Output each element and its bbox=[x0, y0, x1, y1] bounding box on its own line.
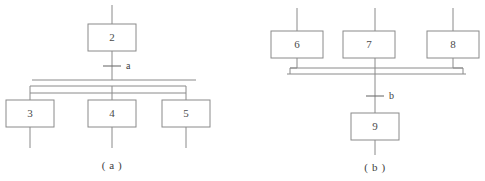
box-8[interactable]: 8 bbox=[427, 31, 479, 58]
block-diagram-figure: 2 a 3 4 bbox=[0, 0, 485, 181]
box-5-label: 5 bbox=[183, 107, 189, 119]
box-6-label: 6 bbox=[294, 38, 300, 50]
diagram-a-group: 2 a 3 4 bbox=[6, 5, 210, 172]
box-3[interactable]: 3 bbox=[6, 100, 54, 127]
box-2-label: 2 bbox=[109, 31, 115, 43]
caption-a: ( a ) bbox=[102, 159, 123, 172]
box-4-label: 4 bbox=[109, 107, 115, 119]
caption-b: ( b ) bbox=[364, 161, 385, 174]
box-5[interactable]: 5 bbox=[162, 100, 210, 127]
figure-container: 2 a 3 4 bbox=[0, 0, 485, 181]
diagram-b-group: 6 7 8 b bbox=[271, 8, 479, 174]
arc-box8-to-join bbox=[453, 58, 463, 74]
box-9[interactable]: 9 bbox=[351, 113, 399, 140]
box-3-label: 3 bbox=[27, 107, 33, 119]
transition-b-label: b bbox=[389, 90, 394, 101]
box-2[interactable]: 2 bbox=[88, 24, 136, 51]
box-9-label: 9 bbox=[372, 120, 378, 132]
box-7-label: 7 bbox=[366, 38, 372, 50]
arc-box6-to-join bbox=[290, 58, 297, 74]
transition-a-label: a bbox=[126, 60, 131, 71]
box-6[interactable]: 6 bbox=[271, 31, 323, 58]
box-4[interactable]: 4 bbox=[88, 100, 136, 127]
box-8-label: 8 bbox=[450, 38, 456, 50]
box-7[interactable]: 7 bbox=[343, 31, 395, 58]
split-branch-routing bbox=[30, 86, 186, 93]
